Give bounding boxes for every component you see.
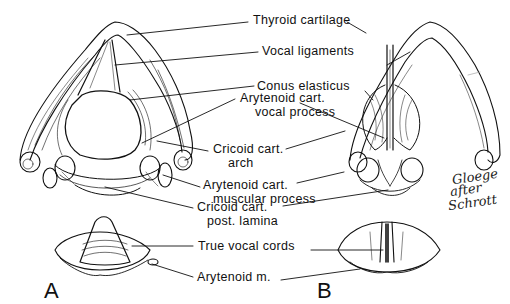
larynx-anatomy-figure: Thyroid cartilage Vocal ligaments Conus … xyxy=(0,0,510,304)
label-cricoid-lamina-l2: post. lamina xyxy=(207,215,278,228)
label-arytenoid-muscle: Arytenoid m. xyxy=(197,271,271,284)
label-arytenoid-vocal-l2: vocal process xyxy=(255,106,335,119)
label-true-vocal-cords: True vocal cords xyxy=(198,240,295,253)
label-vocal-ligaments: Vocal ligaments xyxy=(262,45,354,58)
label-thyroid-cartilage: Thyroid cartilage xyxy=(253,14,351,27)
panel-label-a: A xyxy=(44,278,59,304)
label-cricoid-lamina-l1: Cricoid cart. xyxy=(197,201,268,214)
label-arytenoid-muscular-l1: Arytenoid cart. xyxy=(203,179,288,192)
glottis-b-drawing xyxy=(338,222,440,273)
panel-label-b: B xyxy=(317,278,332,304)
label-cricoid-arch-l1: Cricoid cart. xyxy=(213,143,284,156)
larynx-a-drawing xyxy=(20,22,192,195)
label-arytenoid-vocal-l1: Arytenoid cart. xyxy=(240,92,325,105)
label-cricoid-arch-l2: arch xyxy=(228,157,254,170)
